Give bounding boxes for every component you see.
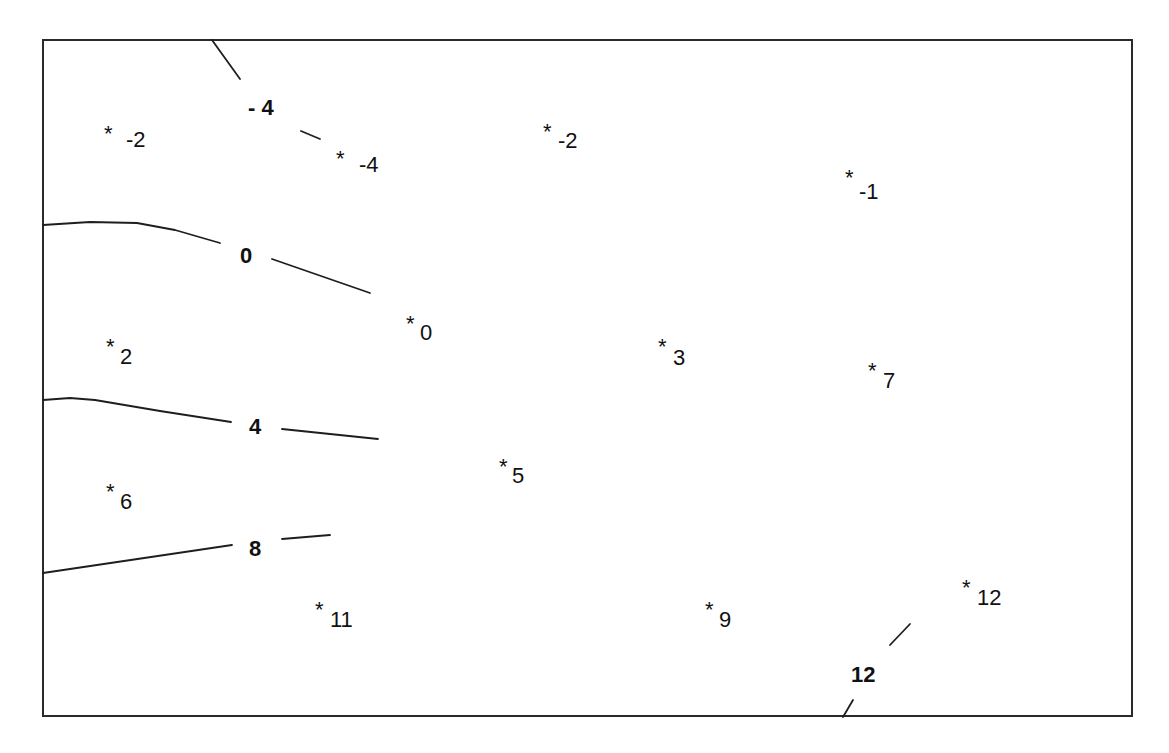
isoline-12-segment xyxy=(890,624,910,645)
data-point: *-2 xyxy=(543,119,578,153)
asterisk-marker-icon: * xyxy=(868,358,877,383)
asterisk-marker-icon: * xyxy=(106,479,115,504)
data-point: *0 xyxy=(406,311,432,345)
data-point-value: -2 xyxy=(558,128,578,153)
asterisk-marker-icon: * xyxy=(845,165,854,190)
data-point-value: 12 xyxy=(977,585,1001,610)
data-point: *-4 xyxy=(336,146,379,177)
isoline-label: 8 xyxy=(249,536,261,561)
data-point-value: 7 xyxy=(883,368,895,393)
isoline-4-segment xyxy=(43,398,231,422)
data-point-value: -4 xyxy=(359,152,379,177)
asterisk-marker-icon: * xyxy=(705,597,714,622)
data-point-value: -1 xyxy=(859,179,879,204)
data-point: *7 xyxy=(868,358,895,393)
data-point-value: 5 xyxy=(512,463,524,488)
data-point: *2 xyxy=(106,334,132,369)
asterisk-marker-icon: * xyxy=(106,334,115,359)
asterisk-marker-icon: * xyxy=(658,334,667,359)
isoline-label: 0 xyxy=(240,243,252,268)
data-point-value: 6 xyxy=(120,489,132,514)
isoline-8-segment xyxy=(282,535,330,539)
asterisk-marker-icon: * xyxy=(499,454,508,479)
isoline-0-segment xyxy=(43,222,220,243)
asterisk-marker-icon: * xyxy=(104,121,113,146)
data-point-value: -2 xyxy=(126,127,146,152)
data-point-value: 2 xyxy=(120,344,132,369)
isoline-label: 4 xyxy=(249,414,262,439)
data-point-value: 0 xyxy=(420,320,432,345)
data-point-value: 3 xyxy=(673,345,685,370)
data-point: *6 xyxy=(106,479,132,514)
asterisk-marker-icon: * xyxy=(406,311,415,336)
isoline-8-segment xyxy=(43,545,232,573)
data-point: *-2 xyxy=(104,121,146,152)
isoline-4-segment xyxy=(282,429,378,439)
data-point: *9 xyxy=(705,597,731,632)
data-point-value: 11 xyxy=(330,607,353,632)
asterisk-marker-icon: * xyxy=(315,597,324,622)
data-point: *11 xyxy=(315,597,353,632)
asterisk-marker-icon: * xyxy=(543,119,552,144)
asterisk-marker-icon: * xyxy=(962,575,971,600)
isoline-labels-group: - 404812 xyxy=(240,95,875,687)
isoline-label: - 4 xyxy=(248,95,274,120)
isolines-group xyxy=(43,40,910,717)
data-point: *5 xyxy=(499,454,524,488)
plot-frame xyxy=(43,40,1132,716)
contour-plot: - 404812 *-2*-4*-2*-1*2*0*3*7*6*5*11*9*1… xyxy=(0,0,1169,753)
isoline-neg4-segment xyxy=(301,131,320,139)
data-point-value: 9 xyxy=(719,607,731,632)
isoline-0-segment xyxy=(272,259,370,293)
data-points-group: *-2*-4*-2*-1*2*0*3*7*6*5*11*9*12 xyxy=(104,119,1001,632)
data-point: *3 xyxy=(658,334,685,370)
isoline-12-segment xyxy=(843,700,853,717)
asterisk-marker-icon: * xyxy=(336,146,345,171)
data-point: *-1 xyxy=(845,165,879,204)
isoline-neg4-segment xyxy=(212,40,240,79)
data-point: *12 xyxy=(962,575,1001,610)
isoline-label: 12 xyxy=(851,662,875,687)
